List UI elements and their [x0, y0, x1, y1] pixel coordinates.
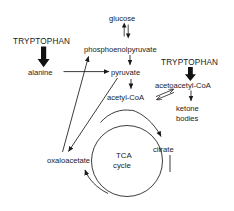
metabolic-pathway-diagram: TRYPTOPHAN alanine glucose phosphoenolpy… — [0, 0, 234, 211]
node-oxaloacetate: oxaloacetate — [47, 156, 90, 165]
node-pyruvate: pyruvate — [111, 68, 140, 77]
node-citrate: citrate — [153, 145, 174, 154]
pathway-svg-canvas: TRYPTOPHAN alanine glucose phosphoenolpy… — [0, 0, 234, 211]
edge-acetyl-coa-to-citrate — [132, 110, 162, 137]
edge-acetyl-coa-acetoacetyl-coa — [156, 89, 174, 99]
node-alanine: alanine — [28, 68, 53, 77]
edge-oxaloacetate-to-phosphoenolpyruvate — [63, 57, 89, 153]
node-glucose: glucose — [109, 14, 135, 23]
node-cycle-label: cycle — [113, 161, 131, 170]
node-tryptophan-left: TRYPTOPHAN — [13, 37, 70, 46]
edge-oxaloacetate-to-acetyl-coa-arc — [101, 110, 132, 123]
node-ketone: ketone — [176, 104, 199, 113]
edge-tryptophan-to-acetoacetyl-coa — [185, 67, 196, 81]
edge-tryptophan-to-alanine — [38, 47, 50, 68]
node-acetyl-coa: acetyl-CoA — [107, 93, 145, 102]
node-phosphoenolpyruvate: phosphoenolpyruvate — [84, 45, 157, 54]
node-tryptophan-right: TRYPTOPHAN — [161, 58, 218, 67]
edge-glucose-phosphoenolpyruvate — [122, 23, 131, 39]
node-tca-label: TCA — [116, 151, 132, 160]
node-bodies: bodies — [176, 114, 199, 123]
node-acetoacetyl-coa: acetoacetyl-CoA — [155, 81, 212, 90]
edge-tca-cycle-to-oxaloacetate — [85, 170, 108, 194]
